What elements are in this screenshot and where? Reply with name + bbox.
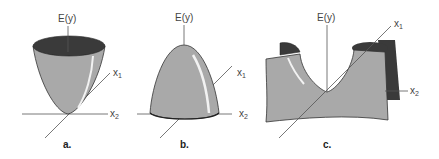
x2-label-b: x2 <box>239 108 248 120</box>
saddle-left-cap <box>280 43 300 55</box>
figure-canvas: E(y) x1 x2 a. E(y) x1 x2 b. E(y) <box>0 0 439 159</box>
panel-label-a: a. <box>63 139 72 150</box>
panel-b: E(y) x1 x2 b. <box>137 12 248 150</box>
panel-label-b: b. <box>180 139 189 150</box>
x2-label-a: x2 <box>110 108 119 120</box>
panel-c: E(y) x1 x2 c. <box>266 12 419 150</box>
ey-label-b: E(y) <box>175 12 193 23</box>
ey-label-c: E(y) <box>317 12 335 23</box>
x1-label-a: x1 <box>113 67 122 79</box>
bowl-opening <box>33 36 105 56</box>
x1-label-b: x1 <box>237 67 246 79</box>
panel-a: E(y) x1 x2 a. <box>22 13 122 150</box>
ey-label-a: E(y) <box>58 13 76 24</box>
panel-label-c: c. <box>323 139 332 150</box>
x2-label-c: x2 <box>410 85 419 97</box>
x1-label-c: x1 <box>394 18 403 30</box>
